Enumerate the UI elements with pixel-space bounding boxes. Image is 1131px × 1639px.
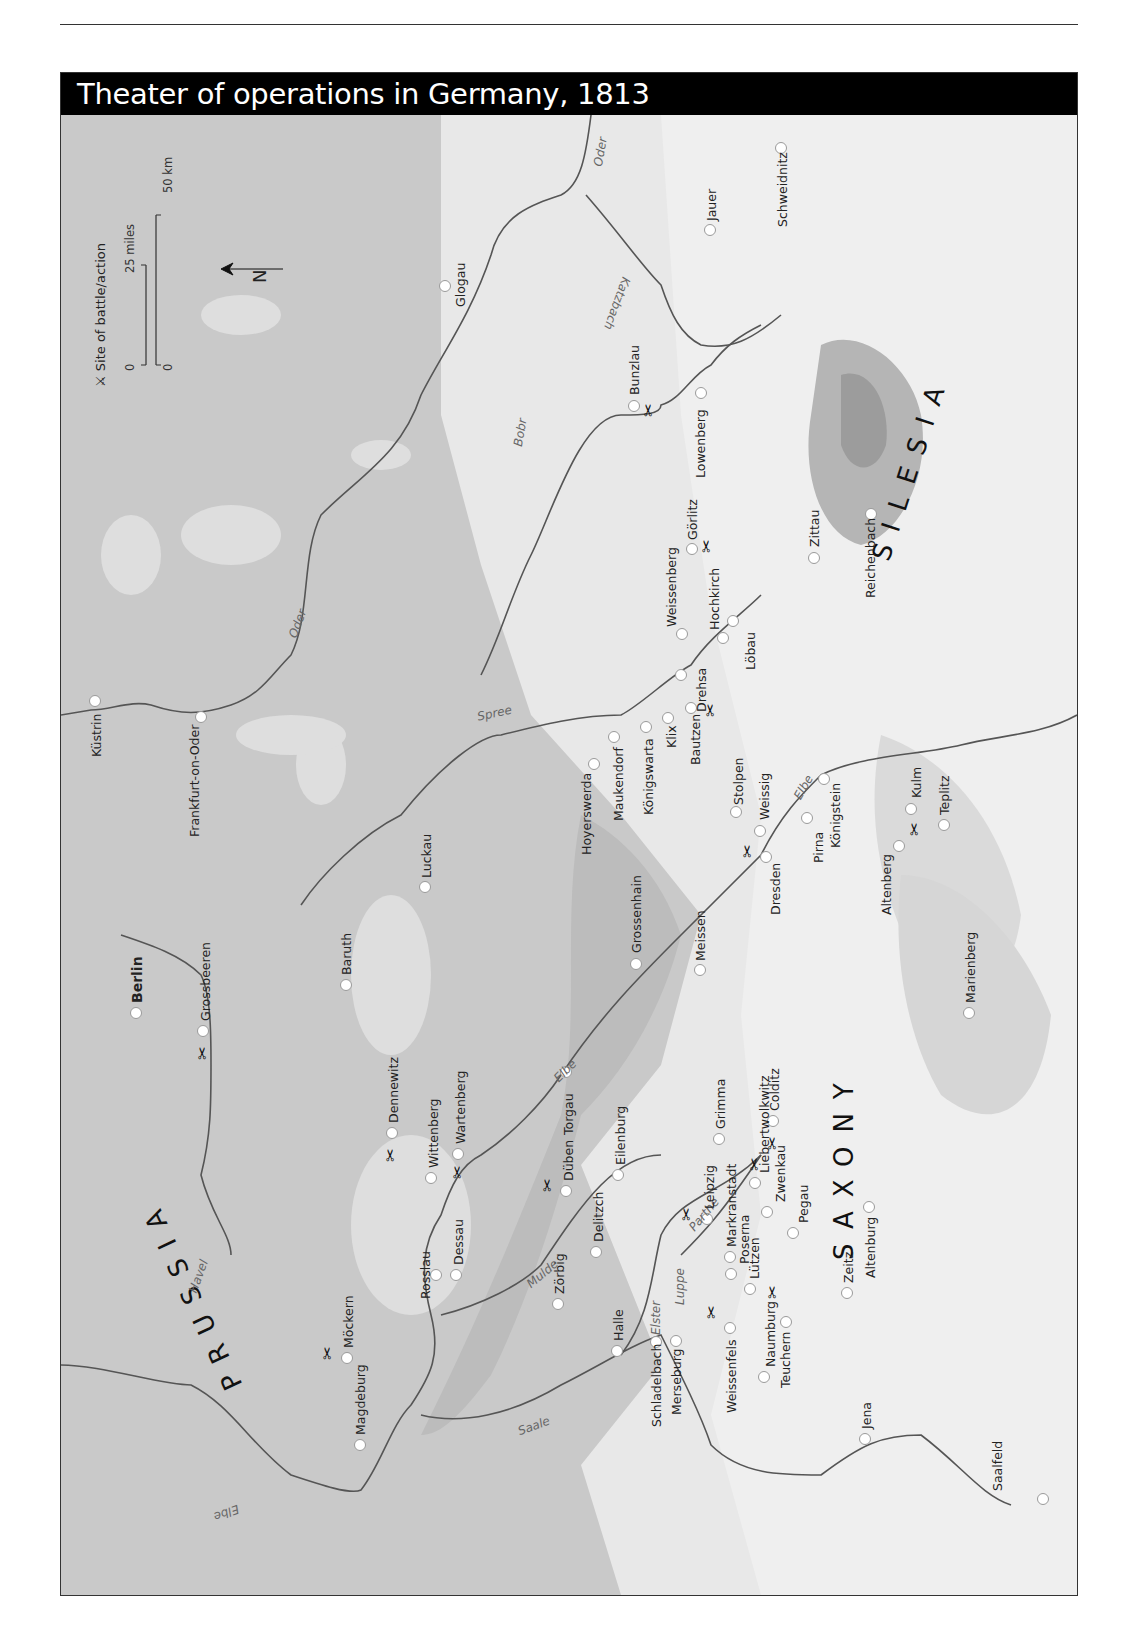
town-marker[interactable]: [675, 669, 687, 681]
town-label-wittenberg: Wittenberg: [426, 1099, 441, 1168]
town-marker[interactable]: [841, 1287, 853, 1299]
battle-icon: ✂: [740, 844, 756, 857]
town-marker[interactable]: [386, 1127, 398, 1139]
town-label-lowenberg: Lowenberg: [693, 409, 708, 478]
town-marker[interactable]: [425, 1172, 437, 1184]
battle-icon: ✂: [383, 1148, 399, 1161]
town-label-kulm: Kulm: [909, 767, 924, 798]
town-label-jena: Jena: [859, 1402, 874, 1429]
river-label-luppe: Luppe: [673, 1268, 687, 1305]
battle-icon: ✂: [747, 1157, 763, 1170]
town-label-zorbig: Zörbig: [552, 1253, 567, 1294]
town-label-grimma: Grimma: [713, 1079, 728, 1129]
town-marker[interactable]: [195, 711, 207, 723]
town-marker[interactable]: [704, 224, 716, 236]
town-marker[interactable]: [758, 1371, 770, 1383]
battle-icon: ✂: [540, 1178, 556, 1191]
scale-miles-zero: 0: [123, 364, 137, 371]
town-marker[interactable]: [694, 964, 706, 976]
town-label-weissig: Weissig: [757, 773, 772, 820]
town-marker[interactable]: [662, 712, 674, 724]
town-marker[interactable]: [588, 758, 600, 770]
town-label-teuchern: Teuchern: [778, 1332, 793, 1388]
town-marker[interactable]: [754, 825, 766, 837]
town-marker[interactable]: [640, 721, 652, 733]
town-label-halle: Halle: [611, 1309, 626, 1341]
battle-icon: ✂: [195, 1046, 211, 1059]
town-label-leipzig: Leipzig: [702, 1165, 717, 1209]
town-marker[interactable]: [452, 1148, 464, 1160]
town-marker[interactable]: [608, 731, 620, 743]
town-marker[interactable]: [340, 979, 352, 991]
town-marker[interactable]: [787, 1227, 799, 1239]
town-marker[interactable]: [341, 1352, 353, 1364]
town-label-luckau: Luckau: [419, 834, 434, 878]
town-marker[interactable]: [727, 615, 739, 627]
town-marker[interactable]: [419, 881, 431, 893]
town-label-weissenberg: Weissenberg: [664, 547, 679, 627]
town-marker[interactable]: [749, 1177, 761, 1189]
town-marker[interactable]: [938, 819, 950, 831]
town-marker[interactable]: [560, 1185, 572, 1197]
region-saxony: SAXONY: [829, 1069, 859, 1260]
town-marker[interactable]: [611, 1345, 623, 1357]
town-marker[interactable]: [730, 806, 742, 818]
town-marker[interactable]: [552, 1298, 564, 1310]
town-marker[interactable]: [439, 280, 451, 292]
town-marker[interactable]: [197, 1025, 209, 1037]
map-canvas[interactable]: ⚔ Site of battle/action 0 25 miles 0 50 …: [61, 115, 1077, 1595]
battle-icon: ⚔: [93, 375, 108, 387]
town-marker[interactable]: [744, 1283, 756, 1295]
town-label-konigstein: Königstein: [828, 783, 843, 848]
town-marker[interactable]: [863, 1201, 875, 1213]
legend-battle-label: ⚔ Site of battle/action: [93, 243, 108, 387]
town-marker[interactable]: [725, 1268, 737, 1280]
town-label-wartenberg: Wartenberg: [453, 1071, 468, 1144]
town-marker[interactable]: [676, 628, 688, 640]
battle-icon: ✂: [907, 822, 923, 835]
town-marker[interactable]: [893, 840, 905, 852]
town-marker[interactable]: [808, 552, 820, 564]
town-label-rosslau: Rosslau: [418, 1251, 433, 1299]
town-label-pegau: Pegau: [796, 1185, 811, 1223]
town-marker[interactable]: [717, 632, 729, 644]
town-marker[interactable]: [630, 958, 642, 970]
town-marker[interactable]: [670, 1335, 682, 1347]
town-marker[interactable]: [859, 1433, 871, 1445]
town-label-zeitz: Zeitz: [841, 1252, 856, 1283]
town-marker[interactable]: [612, 1169, 624, 1181]
town-marker[interactable]: [761, 1206, 773, 1218]
town-marker[interactable]: [905, 803, 917, 815]
town-label-jauer: Jauer: [704, 189, 719, 221]
battle-icon: ✂: [703, 703, 719, 716]
town-marker[interactable]: [695, 387, 707, 399]
town-label-gorlitz: Görlitz: [685, 499, 700, 540]
town-marker[interactable]: [354, 1439, 366, 1451]
town-marker[interactable]: [89, 695, 101, 707]
town-marker[interactable]: [724, 1251, 736, 1263]
town-marker[interactable]: [713, 1133, 725, 1145]
town-marker[interactable]: [760, 851, 772, 863]
town-label-altenberg: Altenberg: [879, 854, 894, 915]
town-label-maukendorf: Maukendorf: [611, 747, 626, 821]
town-marker[interactable]: [963, 1007, 975, 1019]
town-marker[interactable]: [590, 1246, 602, 1258]
battle-icon: ✂: [699, 539, 715, 552]
town-label-stolpen: Stolpen: [731, 757, 746, 805]
town-label-berlin: Berlin: [129, 956, 145, 1003]
north-arrow-label: N: [249, 270, 270, 283]
town-marker[interactable]: [801, 812, 813, 824]
town-label-saalfeld: Saalfeld: [990, 1441, 1005, 1491]
town-label-delitzch: Delitzch: [591, 1191, 606, 1242]
town-marker[interactable]: [1037, 1493, 1049, 1505]
town-marker[interactable]: [450, 1269, 462, 1281]
town-label-naumburg: Naumburg: [763, 1301, 778, 1367]
town-marker[interactable]: [724, 1322, 736, 1334]
battle-icon: ✂: [641, 403, 657, 416]
battle-icon: ✂: [679, 1207, 695, 1220]
town-label-bunzlau: Bunzlau: [627, 345, 642, 395]
town-label-zwenkau: Zwenkau: [773, 1145, 788, 1202]
town-marker[interactable]: [780, 1316, 792, 1328]
town-label-grossenhain: Grossenhain: [629, 875, 644, 953]
town-marker[interactable]: [130, 1007, 142, 1019]
